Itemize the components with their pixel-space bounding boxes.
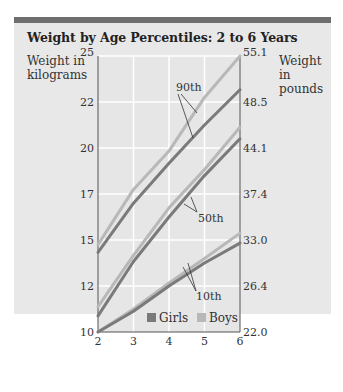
y-tick-label-left: 10 xyxy=(80,326,94,339)
x-tick-label: 6 xyxy=(237,335,244,348)
legend-swatch-boys xyxy=(197,313,206,322)
y-tick-label-left: 12 xyxy=(80,280,94,293)
legend-label-girls: Girls xyxy=(159,311,188,325)
y-tick-label-right: 26.4 xyxy=(243,280,268,293)
y-tick-label-right: 48.5 xyxy=(243,96,268,109)
line-chart: 2522201715121055.148.544.137.433.026.422… xyxy=(0,0,343,392)
y-tick-label-left: 22 xyxy=(80,96,94,109)
y-tick-label-right: 37.4 xyxy=(243,188,268,201)
y-tick-label-left: 25 xyxy=(80,46,94,59)
legend-label-boys: Boys xyxy=(209,311,238,325)
legend-swatch-girls xyxy=(147,313,156,322)
annotation-10th: 10th xyxy=(196,290,222,303)
annotation-50th: 50th xyxy=(198,212,224,225)
x-tick-label: 4 xyxy=(166,335,173,348)
y-tick-label-right: 55.1 xyxy=(243,46,268,59)
y-tick-label-right: 22.0 xyxy=(243,326,268,339)
y-tick-label-right: 44.1 xyxy=(243,142,268,155)
y-tick-label-left: 15 xyxy=(80,234,94,247)
annotation-90th: 90th xyxy=(176,81,202,94)
x-tick-label: 5 xyxy=(201,335,208,348)
y-tick-label-left: 20 xyxy=(80,142,94,155)
x-tick-label: 3 xyxy=(130,335,137,348)
x-tick-label: 2 xyxy=(95,335,102,348)
y-tick-label-right: 33.0 xyxy=(243,234,268,247)
y-tick-label-left: 17 xyxy=(80,188,94,201)
